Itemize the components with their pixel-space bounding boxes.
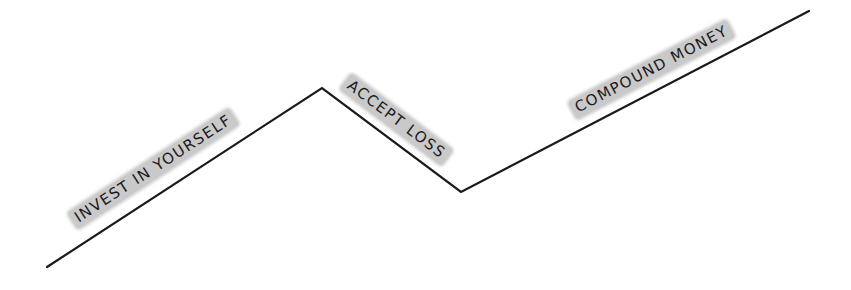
zigzag-diagram: INVEST IN YOURSELF ACCEPT LOSS COMPOUND … — [0, 0, 851, 290]
